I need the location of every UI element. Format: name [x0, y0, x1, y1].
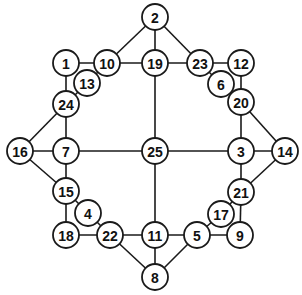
node-label: 5 [193, 228, 201, 244]
node-label: 24 [58, 97, 74, 113]
node-label: 15 [58, 184, 74, 200]
node-label: 7 [62, 144, 70, 160]
node-18: 18 [53, 222, 79, 248]
node-label: 25 [147, 144, 163, 160]
node-5: 5 [184, 222, 210, 248]
node-15: 15 [53, 178, 79, 204]
node-23: 23 [187, 50, 213, 76]
node-13: 13 [74, 70, 100, 96]
node-9: 9 [227, 222, 253, 248]
node-label: 1 [62, 56, 70, 72]
node-label: 10 [99, 56, 115, 72]
node-label: 18 [58, 228, 74, 244]
node-label: 23 [192, 56, 208, 72]
node-label: 14 [277, 144, 293, 160]
node-25: 25 [142, 138, 168, 164]
node-16: 16 [7, 138, 33, 164]
node-label: 16 [12, 144, 28, 160]
node-label: 17 [213, 207, 229, 223]
node-label: 3 [237, 144, 245, 160]
node-3: 3 [228, 138, 254, 164]
node-label: 13 [79, 76, 95, 92]
node-label: 6 [217, 77, 225, 93]
node-14: 14 [272, 138, 298, 164]
node-11: 11 [142, 222, 168, 248]
nodes-layer: 2110192312136242016725314152141718221159… [7, 4, 298, 290]
node-1: 1 [53, 50, 79, 76]
node-label: 8 [151, 270, 159, 286]
node-label: 4 [84, 206, 92, 222]
node-7: 7 [53, 138, 79, 164]
node-4: 4 [75, 200, 101, 226]
node-21: 21 [228, 179, 254, 205]
node-2: 2 [142, 4, 168, 30]
graph-diagram: 2110192312136242016725314152141718221159… [0, 0, 302, 295]
node-22: 22 [97, 222, 123, 248]
node-8: 8 [142, 264, 168, 290]
node-label: 12 [233, 56, 249, 72]
node-17: 17 [208, 201, 234, 227]
node-label: 21 [233, 185, 249, 201]
node-label: 22 [102, 228, 118, 244]
node-label: 9 [236, 228, 244, 244]
node-24: 24 [53, 91, 79, 117]
node-19: 19 [142, 50, 168, 76]
node-6: 6 [208, 71, 234, 97]
node-12: 12 [228, 50, 254, 76]
node-label: 20 [233, 95, 249, 111]
node-label: 2 [151, 10, 159, 26]
node-label: 11 [148, 228, 163, 244]
node-label: 19 [147, 56, 163, 72]
node-20: 20 [228, 89, 254, 115]
node-10: 10 [94, 50, 120, 76]
